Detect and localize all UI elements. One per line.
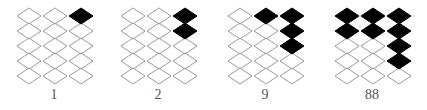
filled-diamond-icon bbox=[335, 8, 359, 24]
diamond-grid-9 bbox=[227, 7, 307, 87]
empty-diamond-icon bbox=[147, 23, 171, 39]
empty-diamond-icon bbox=[69, 38, 93, 54]
filled-diamond-icon bbox=[254, 8, 278, 24]
empty-diamond-icon bbox=[228, 38, 252, 54]
filled-diamond-icon bbox=[361, 23, 385, 39]
filled-diamond-icon bbox=[361, 8, 385, 24]
filled-diamond-icon bbox=[173, 23, 197, 39]
empty-diamond-icon bbox=[121, 68, 145, 84]
empty-diamond-icon bbox=[147, 68, 171, 84]
filled-diamond-icon bbox=[280, 23, 304, 39]
empty-diamond-icon bbox=[147, 53, 171, 69]
empty-diamond-icon bbox=[17, 38, 41, 54]
empty-diamond-icon bbox=[387, 68, 411, 84]
empty-diamond-icon bbox=[228, 68, 252, 84]
empty-diamond-icon bbox=[254, 38, 278, 54]
empty-diamond-icon bbox=[173, 68, 197, 84]
filled-diamond-icon bbox=[280, 38, 304, 54]
filled-diamond-icon bbox=[280, 8, 304, 24]
empty-diamond-icon bbox=[121, 8, 145, 24]
panel-label-9: 9 bbox=[225, 86, 305, 104]
empty-diamond-icon bbox=[17, 53, 41, 69]
empty-diamond-icon bbox=[173, 38, 197, 54]
empty-diamond-icon bbox=[280, 68, 304, 84]
empty-diamond-icon bbox=[69, 23, 93, 39]
empty-diamond-icon bbox=[280, 53, 304, 69]
empty-diamond-icon bbox=[228, 53, 252, 69]
empty-diamond-icon bbox=[173, 53, 197, 69]
empty-diamond-icon bbox=[121, 38, 145, 54]
filled-diamond-icon bbox=[69, 8, 93, 24]
empty-diamond-icon bbox=[335, 68, 359, 84]
filled-diamond-icon bbox=[335, 23, 359, 39]
empty-diamond-icon bbox=[121, 53, 145, 69]
diamond-grid-88 bbox=[334, 7, 414, 87]
filled-diamond-icon bbox=[387, 23, 411, 39]
empty-diamond-icon bbox=[361, 68, 385, 84]
empty-diamond-icon bbox=[254, 53, 278, 69]
empty-diamond-icon bbox=[228, 8, 252, 24]
empty-diamond-icon bbox=[43, 8, 67, 24]
panel-label-1: 1 bbox=[14, 86, 94, 104]
empty-diamond-icon bbox=[43, 38, 67, 54]
empty-diamond-icon bbox=[228, 23, 252, 39]
filled-diamond-icon bbox=[173, 8, 197, 24]
empty-diamond-icon bbox=[254, 23, 278, 39]
empty-diamond-icon bbox=[43, 53, 67, 69]
empty-diamond-icon bbox=[17, 23, 41, 39]
empty-diamond-icon bbox=[43, 23, 67, 39]
empty-diamond-icon bbox=[69, 68, 93, 84]
empty-diamond-icon bbox=[254, 68, 278, 84]
panel-label-88: 88 bbox=[332, 86, 412, 104]
empty-diamond-icon bbox=[121, 23, 145, 39]
empty-diamond-icon bbox=[335, 38, 359, 54]
diamond-grid-2 bbox=[120, 7, 200, 87]
empty-diamond-icon bbox=[361, 53, 385, 69]
filled-diamond-icon bbox=[387, 8, 411, 24]
empty-diamond-icon bbox=[361, 38, 385, 54]
empty-diamond-icon bbox=[69, 53, 93, 69]
empty-diamond-icon bbox=[43, 68, 67, 84]
empty-diamond-icon bbox=[147, 38, 171, 54]
empty-diamond-icon bbox=[17, 8, 41, 24]
filled-diamond-icon bbox=[387, 53, 411, 69]
diamond-grid-1 bbox=[16, 7, 96, 87]
empty-diamond-icon bbox=[147, 8, 171, 24]
empty-diamond-icon bbox=[17, 68, 41, 84]
filled-diamond-icon bbox=[387, 38, 411, 54]
panel-label-2: 2 bbox=[118, 86, 198, 104]
empty-diamond-icon bbox=[335, 53, 359, 69]
